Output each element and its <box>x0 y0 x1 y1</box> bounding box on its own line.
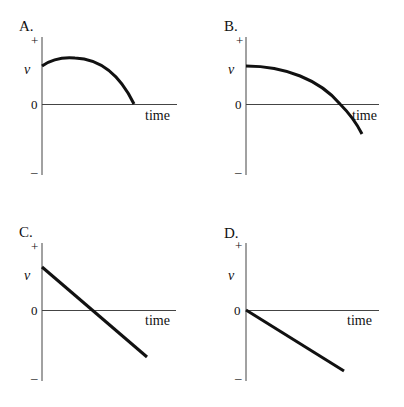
velocity-curve-a <box>42 58 134 104</box>
x-axis-label-c: time <box>145 313 170 328</box>
y-minus-label-b: – <box>234 164 242 179</box>
y-plus-label-b: + <box>236 33 243 48</box>
panel-b: B. + v 0 – time <box>224 18 379 179</box>
y-minus-label-a: – <box>30 164 38 179</box>
panel-label-b: B. <box>224 18 238 34</box>
velocity-graphs-figure: A. + v 0 – time B. + v 0 – time C. + v 0… <box>0 0 404 407</box>
velocity-line-d <box>246 310 344 371</box>
y-variable-label-d: v <box>228 268 235 283</box>
x-axis-label-a: time <box>145 108 170 123</box>
y-variable-label-c: v <box>24 268 31 283</box>
y-zero-label-c: 0 <box>31 303 38 318</box>
panel-c: C. + v 0 – time <box>19 224 176 385</box>
velocity-curve-b <box>246 66 362 134</box>
y-zero-label-d: 0 <box>234 303 241 318</box>
y-plus-label-c: + <box>31 239 38 254</box>
y-variable-label-a: v <box>24 62 31 77</box>
y-minus-label-d: – <box>234 370 242 385</box>
y-zero-label-b: 0 <box>235 97 242 112</box>
x-axis-label-d: time <box>347 313 372 328</box>
y-plus-label-d: + <box>235 238 242 253</box>
panel-d: D. + v 0 – time <box>224 225 379 385</box>
panel-a: A. + v 0 – time <box>19 18 177 179</box>
panel-label-a: A. <box>19 18 34 34</box>
panel-label-c: C. <box>19 224 33 240</box>
y-plus-label-a: + <box>31 33 38 48</box>
velocity-line-c <box>42 267 147 357</box>
y-variable-label-b: v <box>228 62 235 77</box>
y-zero-label-a: 0 <box>31 97 38 112</box>
y-minus-label-c: – <box>30 370 38 385</box>
